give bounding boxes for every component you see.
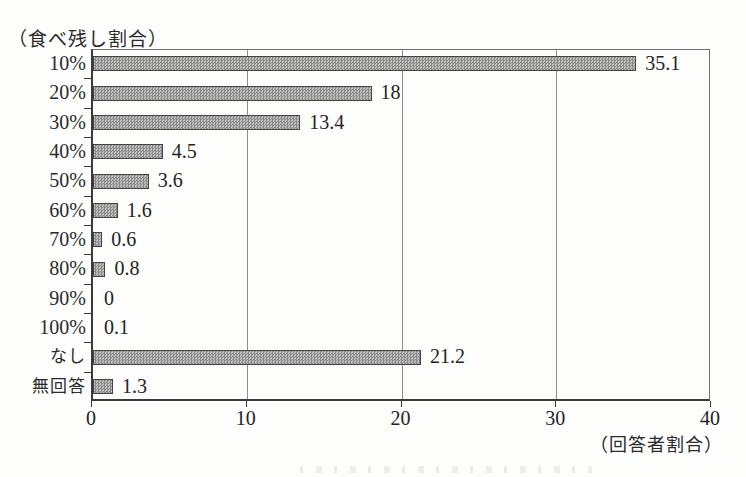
bar-chart-figure: （食べ残し割合） 35.11813.44.53.61.60.60.800.121… [0,0,746,477]
y-axis-tick [84,254,91,255]
y-axis-tick [84,372,91,373]
category-label: 100% [0,313,86,342]
category-label: なし [0,342,86,371]
x-tick-label: 40 [685,407,735,430]
category-label: 30% [0,108,86,137]
category-label: 10% [0,49,86,78]
category-label: 20% [0,78,86,107]
bar [93,203,118,218]
value-label: 0.6 [111,225,136,254]
gridline-10 [247,50,248,399]
bar [93,262,105,277]
bar [93,350,421,365]
bar [93,56,636,71]
category-label: 無回答 [0,372,86,401]
category-label: 70% [0,225,86,254]
cut-off-caption-remnant [300,466,592,473]
bar [93,86,372,101]
value-label: 3.6 [158,166,183,195]
gridline-30 [556,50,557,399]
category-label: 80% [0,254,86,283]
category-label: 50% [0,166,86,195]
y-axis-tick [84,166,91,167]
bar [93,115,300,130]
value-label: 4.5 [172,137,197,166]
y-axis-tick [84,137,91,138]
value-label: 0.1 [104,313,129,342]
value-label: 0.8 [114,254,139,283]
gridline-20 [402,50,403,399]
x-tick-label: 10 [221,407,271,430]
y-axis-tick [84,284,91,285]
plot-area: 35.11813.44.53.61.60.60.800.121.21.3 [91,49,710,401]
value-label: 1.6 [127,196,152,225]
y-axis-title: （食べ残し割合） [8,24,168,51]
value-label: 18 [381,78,401,107]
value-label: 21.2 [430,342,465,371]
value-label: 35.1 [645,49,680,78]
category-label: 90% [0,284,86,313]
bar [93,144,163,159]
y-axis-tick [84,313,91,314]
y-axis-tick [84,196,91,197]
value-label: 1.3 [122,372,147,401]
y-axis-tick [84,342,91,343]
category-label: 40% [0,137,86,166]
y-axis-tick [84,78,91,79]
x-tick-label: 0 [66,407,116,430]
value-label: 0 [104,284,114,313]
y-axis-tick [84,225,91,226]
bar [93,232,102,247]
x-axis-title: （回答者割合） [590,430,723,456]
value-label: 13.4 [309,108,344,137]
x-tick-label: 20 [376,407,426,430]
bar [93,379,113,394]
bar [93,174,149,189]
x-tick-label: 30 [530,407,580,430]
category-label: 60% [0,196,86,225]
y-axis-tick [84,108,91,109]
